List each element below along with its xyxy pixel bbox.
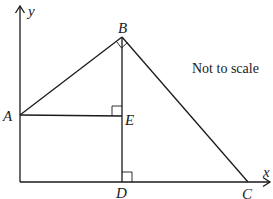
x-axis	[20, 178, 270, 187]
right-angle-marker-D	[122, 172, 132, 182]
segment-AB	[20, 37, 122, 115]
point-label-B: B	[118, 20, 127, 36]
x-axis-label: x	[262, 164, 270, 180]
point-label-C: C	[242, 186, 253, 199]
geometry-diagram: y x B A E D C Not to scale	[0, 0, 273, 199]
point-label-D: D	[115, 185, 127, 199]
y-axis	[16, 6, 25, 182]
segment-AE	[20, 115, 122, 116]
point-label-E: E	[124, 112, 134, 128]
not-to-scale-note: Not to scale	[192, 61, 259, 76]
segment-BC	[122, 37, 248, 182]
point-label-A: A	[2, 108, 13, 124]
y-axis-label: y	[26, 3, 35, 19]
right-angle-marker-E	[112, 106, 122, 116]
